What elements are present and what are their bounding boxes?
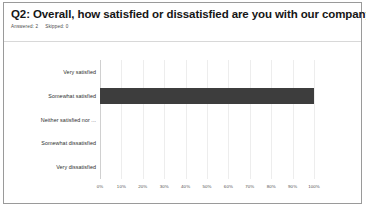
bar-chart: Very satisfiedSomewhat satisfiedNeither …: [4, 43, 361, 203]
bar: [100, 88, 314, 104]
plot-area: [100, 60, 314, 179]
answered-count: Answered: 2: [11, 24, 38, 30]
x-tick-label: 20%: [138, 184, 147, 189]
x-tick-label: 0%: [97, 184, 104, 189]
category-label: Somewhat satisfied: [4, 93, 96, 99]
skipped-count: Skipped: 0: [45, 24, 68, 30]
x-tick-label: 100%: [308, 184, 320, 189]
category-label: Somewhat dissatisfied: [4, 140, 96, 146]
y-axis-category-labels: Very satisfiedSomewhat satisfiedNeither …: [4, 60, 96, 179]
x-tick-label: 90%: [288, 184, 297, 189]
x-tick-label: 40%: [181, 184, 190, 189]
header-divider: [4, 41, 361, 42]
category-label: Very dissatisfied: [4, 164, 96, 170]
x-tick-label: 30%: [160, 184, 169, 189]
x-tick-label: 70%: [245, 184, 254, 189]
x-axis-tick-labels: 0%10%20%30%40%50%60%70%80%90%100%: [100, 184, 314, 194]
response-meta: Answered: 2 Skipped: 0: [11, 24, 361, 30]
x-tick-label: 60%: [224, 184, 233, 189]
page-title: Q2: Overall, how satisfied or dissatisfi…: [11, 8, 361, 21]
bar-series: [100, 60, 314, 179]
x-tick-label: 10%: [117, 184, 126, 189]
category-label: Neither satisfied nor ...: [4, 117, 96, 123]
x-tick-label: 80%: [267, 184, 276, 189]
survey-question-card: Q2: Overall, how satisfied or dissatisfi…: [3, 2, 362, 204]
card-header: Q2: Overall, how satisfied or dissatisfi…: [4, 3, 361, 33]
gridline: [314, 60, 315, 179]
x-tick-label: 50%: [202, 184, 211, 189]
category-label: Very satisfied: [4, 69, 96, 75]
